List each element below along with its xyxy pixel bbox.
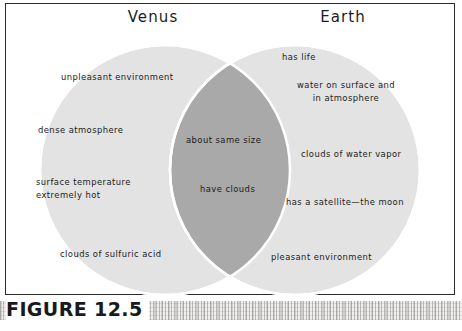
venus-item-label: dense atmosphere bbox=[38, 124, 123, 137]
earth-item-label: has a satellite—the moon bbox=[286, 196, 404, 209]
venus-item-label: surface temperature extremely hot bbox=[36, 176, 131, 201]
venus-item-label: unpleasant environment bbox=[61, 71, 174, 84]
figure-caption: FIGURE 12.5 bbox=[6, 298, 149, 320]
earth-item-label: pleasant environment bbox=[271, 251, 372, 264]
intersection-item-label: have clouds bbox=[200, 183, 255, 196]
earth-title: Earth bbox=[273, 8, 413, 26]
earth-item-label: water on surface and in atmosphere bbox=[286, 79, 406, 104]
earth-item-label: has life bbox=[282, 51, 316, 64]
venus-item-label: clouds of sulfuric acid bbox=[60, 248, 161, 261]
venn-diagram: Venus Earth unpleasant environment dense… bbox=[5, 3, 455, 295]
earth-item-label: clouds of water vapor bbox=[301, 148, 401, 161]
figure-caption-row: FIGURE 12.5 bbox=[0, 296, 462, 331]
venus-title: Venus bbox=[83, 8, 223, 26]
intersection-item-label: about same size bbox=[186, 134, 261, 147]
figure-container: Venus Earth unpleasant environment dense… bbox=[0, 0, 462, 331]
